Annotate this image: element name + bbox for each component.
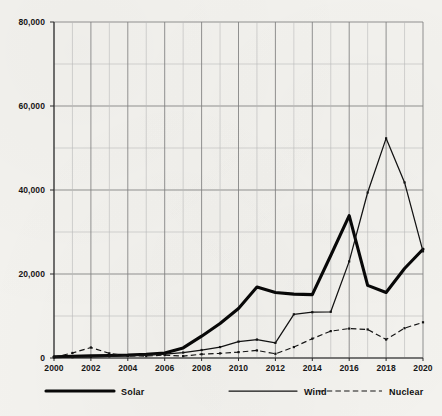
x-axis-tick-label: 2018 [376,363,395,373]
data-point-marker-wind [274,342,276,344]
x-axis-tick-label: 2004 [118,363,137,373]
data-point-marker-nuclear [237,351,239,353]
data-point-marker-wind [385,137,387,139]
data-point-marker-nuclear [108,352,110,354]
data-point-marker-nuclear [219,352,221,354]
x-axis-tick-labels: 2000200220042006200820102012201420162018… [44,358,432,373]
data-point-marker-wind [348,260,350,262]
data-point-marker-wind [293,313,295,315]
data-point-marker-nuclear [164,354,166,356]
data-point-marker-nuclear [330,330,332,332]
x-axis-tick-label: 2020 [413,363,432,373]
data-point-marker-nuclear [367,328,369,330]
x-axis-tick-label: 2006 [155,363,174,373]
y-axis-tick-label: 40,000 [18,185,45,195]
x-axis-tick-label: 2008 [192,363,211,373]
data-point-marker-wind [311,311,313,313]
line-chart-figure: 020,00040,00060,00080,000 20002002200420… [0,0,442,416]
data-point-marker-nuclear [201,353,203,355]
data-point-marker-nuclear [71,352,73,354]
data-point-marker-nuclear [145,355,147,357]
x-axis-tick-label: 2012 [266,363,285,373]
data-point-marker-nuclear [311,338,313,340]
data-point-marker-wind [422,250,424,252]
y-axis-tick-label: 20,000 [18,269,45,279]
data-point-marker-wind [237,341,239,343]
data-point-marker-nuclear [90,346,92,348]
y-axis-tick-labels: 020,00040,00060,00080,000 [18,17,54,363]
y-axis-tick-label: 60,000 [18,101,45,111]
x-axis-tick-label: 2010 [229,363,248,373]
data-point-marker-wind [256,338,258,340]
data-point-marker-nuclear [127,355,129,357]
x-axis-tick-label: 2000 [44,363,63,373]
chart-svg: 020,00040,00060,00080,000 20002002200420… [0,0,442,416]
x-axis-tick-label: 2014 [303,363,322,373]
legend-label-solar: Solar [121,387,145,397]
data-point-marker-nuclear [385,338,387,340]
data-point-marker-nuclear [422,321,424,323]
y-axis-tick-label: 80,000 [18,17,45,27]
data-point-marker-wind [403,181,405,183]
legend-label-nuclear: Nuclear [389,387,424,397]
y-axis-tick-label: 0 [40,353,45,363]
chart-legend: SolarWindNuclear [46,387,424,397]
data-point-marker-wind [201,349,203,351]
data-point-marker-wind [90,356,92,358]
data-point-marker-nuclear [274,353,276,355]
data-point-marker-nuclear [53,356,55,358]
data-point-marker-nuclear [256,349,258,351]
data-point-marker-nuclear [403,327,405,329]
x-axis-tick-label: 2002 [81,363,100,373]
data-point-marker-wind [367,191,369,193]
data-point-marker-nuclear [293,346,295,348]
data-point-marker-wind [219,346,221,348]
data-point-marker-nuclear [182,355,184,357]
data-point-marker-wind [330,311,332,313]
data-point-marker-wind [108,355,110,357]
x-axis-tick-label: 2016 [340,363,359,373]
data-point-marker-nuclear [348,328,350,330]
data-point-marker-wind [71,356,73,358]
data-point-marker-wind [182,351,184,353]
